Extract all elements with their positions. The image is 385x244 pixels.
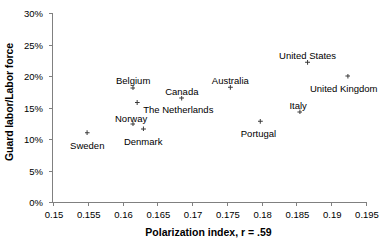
data-point-marker bbox=[345, 74, 350, 79]
data-point-marker bbox=[141, 126, 146, 131]
plot-area: 0%5%10%15%20%25%30% 0.150.1550.160.1650.… bbox=[52, 13, 366, 203]
data-point-label: Canada bbox=[165, 86, 198, 97]
x-tick-label: 0.175 bbox=[216, 208, 240, 221]
y-tick-label: 5% bbox=[29, 165, 43, 178]
data-point-label: Portugal bbox=[241, 128, 276, 139]
x-tick-label: 0.15 bbox=[45, 208, 64, 221]
data-point-label: Australia bbox=[212, 75, 249, 86]
y-tick: 25% bbox=[49, 45, 53, 46]
y-tick-label: 20% bbox=[24, 70, 43, 83]
y-axis-title: Guard labor/Labor force bbox=[2, 1, 16, 203]
x-tick-label: 0.17 bbox=[184, 208, 203, 221]
data-point-label: United States bbox=[279, 50, 336, 61]
x-tick: 0.165 bbox=[157, 202, 158, 206]
x-tick: 0.155 bbox=[88, 202, 89, 206]
x-tick-label: 0.155 bbox=[77, 208, 101, 221]
x-tick-label: 0.185 bbox=[286, 208, 310, 221]
data-point-label: Denmark bbox=[124, 136, 163, 147]
x-tick: 0.195 bbox=[366, 202, 367, 206]
x-tick: 0.15 bbox=[53, 202, 54, 206]
y-tick-label: 0% bbox=[29, 196, 43, 209]
x-tick: 0.17 bbox=[192, 202, 193, 206]
x-tick-label: 0.165 bbox=[146, 208, 170, 221]
data-point-marker bbox=[135, 100, 140, 105]
x-tick: 0.16 bbox=[123, 202, 124, 206]
y-tick-label: 10% bbox=[24, 133, 43, 146]
y-tick: 15% bbox=[49, 108, 53, 109]
scatter-chart: Guard labor/Labor force 0%5%10%15%20%25%… bbox=[0, 0, 385, 244]
x-tick: 0.18 bbox=[262, 202, 263, 206]
x-tick-label: 0.18 bbox=[253, 208, 272, 221]
y-tick-label: 25% bbox=[24, 39, 43, 52]
x-tick: 0.175 bbox=[227, 202, 228, 206]
data-point-label: Sweden bbox=[70, 140, 104, 151]
data-point-label: Norway bbox=[115, 113, 147, 124]
data-point-label: The Netherlands bbox=[143, 104, 213, 115]
data-point-label: United Kingdom bbox=[310, 83, 378, 94]
y-tick: 20% bbox=[49, 76, 53, 77]
x-tick-label: 0.19 bbox=[323, 208, 342, 221]
x-tick-label: 0.195 bbox=[355, 208, 379, 221]
y-tick: 5% bbox=[49, 171, 53, 172]
x-tick-label: 0.16 bbox=[114, 208, 133, 221]
y-tick-label: 15% bbox=[24, 102, 43, 115]
x-axis-title: Polarization index, r = .59 bbox=[52, 226, 365, 238]
x-tick: 0.185 bbox=[296, 202, 297, 206]
data-point-label: Belgium bbox=[116, 75, 150, 86]
x-tick: 0.19 bbox=[331, 202, 332, 206]
y-tick: 30% bbox=[49, 13, 53, 14]
data-point-marker bbox=[130, 85, 135, 90]
y-tick-label: 30% bbox=[24, 7, 43, 20]
y-tick: 10% bbox=[49, 139, 53, 140]
data-point-marker bbox=[258, 119, 263, 124]
data-point-marker bbox=[85, 130, 90, 135]
data-point-label: Italy bbox=[289, 100, 306, 111]
